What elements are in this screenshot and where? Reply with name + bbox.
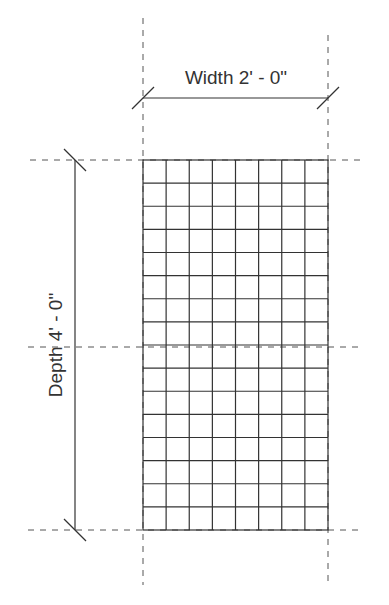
- depth-label: Depth 4' - 0": [45, 293, 66, 397]
- depth-dimension: [64, 149, 86, 541]
- diagram-canvas: Width 2' - 0" Depth 4' - 0": [0, 0, 389, 605]
- tile-grid: [143, 160, 328, 530]
- width-label: Width 2' - 0": [185, 67, 287, 88]
- width-dimension: [132, 87, 339, 109]
- reference-lines: [28, 18, 362, 585]
